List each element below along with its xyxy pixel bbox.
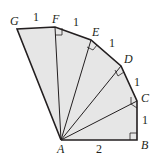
length-label-FG: 1 — [33, 10, 39, 24]
vertex-label-E: E — [91, 25, 100, 39]
length-label-CD: 1 — [134, 75, 140, 89]
length-label-BC: 1 — [142, 113, 148, 127]
length-label-EF: 1 — [73, 15, 79, 29]
vertex-label-G: G — [10, 14, 19, 28]
length-label-AB: 2 — [96, 142, 102, 156]
vertex-label-C: C — [141, 91, 150, 105]
vertex-label-D: D — [123, 52, 133, 66]
spiral-triangles-figure: A B C D E F G 2 1 1 1 1 1 — [0, 0, 158, 156]
vertex-label-F: F — [51, 12, 60, 26]
diagram-canvas: A B C D E F G 2 1 1 1 1 1 — [0, 0, 158, 156]
vertex-label-A: A — [56, 142, 65, 156]
filled-region — [17, 27, 137, 140]
vertex-label-B: B — [141, 138, 149, 152]
length-label-DE: 1 — [109, 36, 115, 50]
